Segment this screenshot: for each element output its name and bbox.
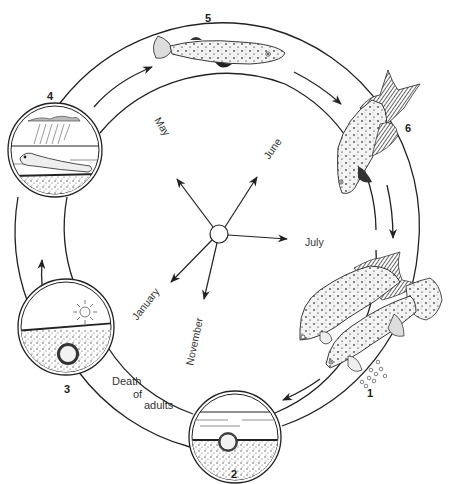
arrow-november-icon: [204, 243, 217, 299]
month-label-january: January: [129, 285, 162, 322]
inner-arc-4-5: [100, 73, 285, 133]
stage-6-adult-fish: 6: [338, 70, 421, 194]
month-label-may: May: [152, 115, 173, 139]
stage-number-1: 1: [367, 387, 373, 399]
stage-1-spawning-fish: 1: [300, 252, 442, 399]
arrow-july-icon: [228, 235, 287, 239]
arrow-january-icon: [171, 240, 212, 282]
month-label-june: June: [261, 135, 284, 161]
stage-number-4: 4: [47, 90, 54, 102]
stage-number-3: 3: [64, 383, 70, 395]
arrow-may-icon: [177, 179, 213, 227]
stage-3-circle: 3: [15, 279, 125, 395]
month-compass: May June July January November: [129, 115, 324, 367]
egg-icon: [220, 434, 236, 450]
arrow-june-icon: [225, 177, 257, 227]
outer-arc-3-4: [15, 197, 28, 303]
arrow-6-to-1-icon: [387, 185, 393, 238]
eggs-icon: [360, 360, 387, 388]
arrow-4-to-5-icon: [94, 67, 152, 107]
stage-number-2: 2: [231, 468, 237, 480]
stage-2-circle: 2: [188, 391, 283, 484]
inner-arc-3-4: [64, 197, 74, 283]
stage-5-juvenile-fish: 5: [153, 12, 285, 68]
life-cycle-diagram: May June July January November 4: [0, 0, 450, 484]
arrow-5-to-6-icon: [294, 72, 341, 104]
hub-circle: [210, 225, 228, 243]
month-label-november: November: [183, 316, 205, 366]
egg-icon: [60, 346, 77, 363]
svg-text:adults: adults: [144, 399, 174, 411]
stage-4-circle: 4: [8, 90, 104, 200]
stage-number-5: 5: [205, 12, 211, 24]
death-of-adults-note: Death of adults: [112, 375, 174, 411]
svg-text:of: of: [133, 388, 143, 400]
month-label-july: July: [305, 236, 324, 248]
tail-fin-icon: [153, 36, 172, 58]
svg-text:Death: Death: [112, 375, 141, 387]
stage-number-6: 6: [405, 122, 411, 134]
